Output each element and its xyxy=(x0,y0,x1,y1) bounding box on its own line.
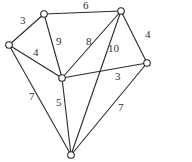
node-C xyxy=(6,42,13,49)
edge-weight-label: 3 xyxy=(20,14,26,26)
edge-B-D xyxy=(121,11,147,63)
edge-weight-label: 3 xyxy=(115,70,121,82)
edge-weight-label: 4 xyxy=(145,28,151,40)
edge-E-F xyxy=(62,78,71,155)
edge-weight-label: 10 xyxy=(108,42,120,54)
edge-weight-label: 7 xyxy=(29,90,35,102)
edge-weight-label: 7 xyxy=(118,101,124,113)
edge-C-F xyxy=(9,45,71,155)
node-D xyxy=(144,60,151,67)
edge-weight-label: 6 xyxy=(83,0,89,11)
node-B xyxy=(118,8,125,15)
node-E xyxy=(59,75,66,82)
weighted-graph: 639481043757 xyxy=(0,0,192,162)
edge-A-C xyxy=(9,14,44,45)
node-A xyxy=(41,11,48,18)
edge-A-B xyxy=(44,11,121,14)
edge-E-D xyxy=(62,63,147,78)
edge-weight-label: 9 xyxy=(56,35,62,47)
edge-B-F xyxy=(71,11,121,155)
edge-weight-label: 5 xyxy=(56,96,62,108)
node-F xyxy=(68,152,75,159)
edge-weight-label: 8 xyxy=(86,35,92,47)
edge-weight-label: 4 xyxy=(33,46,39,58)
edge-D-F xyxy=(71,63,147,155)
